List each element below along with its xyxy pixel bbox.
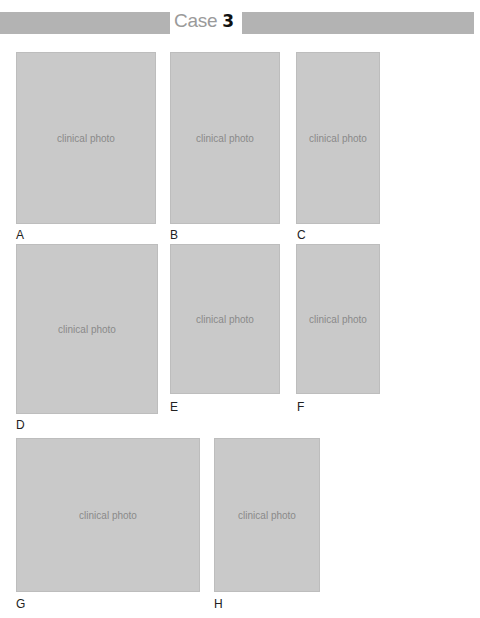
photo-placeholder: clinical photo bbox=[17, 439, 199, 591]
case-number: 3 bbox=[222, 11, 234, 31]
panel-label-d: D bbox=[16, 418, 25, 432]
panel-label-c: C bbox=[297, 228, 306, 242]
photo-panel-h: clinical photo bbox=[214, 438, 320, 592]
panel-label-g: G bbox=[16, 597, 25, 611]
photo-placeholder: clinical photo bbox=[17, 53, 155, 223]
photo-panel-b: clinical photo bbox=[170, 52, 280, 224]
page-title: Case 3 bbox=[174, 10, 234, 32]
photo-panel-d: clinical photo bbox=[16, 244, 158, 414]
photo-placeholder: clinical photo bbox=[17, 245, 157, 413]
photo-placeholder: clinical photo bbox=[215, 439, 319, 591]
panel-label-e: E bbox=[170, 400, 178, 414]
photo-placeholder: clinical photo bbox=[297, 53, 379, 223]
panel-label-f: F bbox=[297, 400, 304, 414]
panel-label-h: H bbox=[214, 597, 223, 611]
photo-panel-f: clinical photo bbox=[296, 244, 380, 394]
photo-placeholder: clinical photo bbox=[171, 53, 279, 223]
photo-panel-e: clinical photo bbox=[170, 244, 280, 394]
photo-panel-a: clinical photo bbox=[16, 52, 156, 224]
photo-panel-g: clinical photo bbox=[16, 438, 200, 592]
case-word: Case bbox=[174, 10, 217, 31]
panel-label-a: A bbox=[16, 228, 24, 242]
photo-placeholder: clinical photo bbox=[171, 245, 279, 393]
panel-label-b: B bbox=[170, 228, 178, 242]
photo-placeholder: clinical photo bbox=[297, 245, 379, 393]
photo-panel-c: clinical photo bbox=[296, 52, 380, 224]
header-bar-right bbox=[242, 12, 474, 34]
header-bar-left bbox=[0, 12, 170, 34]
